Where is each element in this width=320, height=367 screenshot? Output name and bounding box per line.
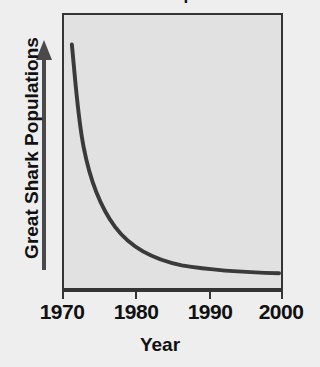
- x-axis-line: [62, 290, 283, 292]
- x-tick-1970: [62, 290, 64, 299]
- chart-title-text: Great Shark Populations: [0, 0, 320, 4]
- x-tick-1990: [209, 290, 211, 299]
- data-curve: [64, 15, 281, 288]
- plot-area: [62, 13, 283, 290]
- x-tick-label-1980: 1980: [114, 300, 159, 324]
- x-tick-1980: [135, 290, 137, 299]
- decay-curve-path: [72, 45, 279, 274]
- y-axis-title: Great Shark Populations: [21, 8, 43, 288]
- x-tick-label-2000: 2000: [259, 300, 304, 324]
- x-tick-labels: 1970 1980 1990 2000: [0, 300, 320, 330]
- x-tick-label-1970: 1970: [40, 300, 85, 324]
- chart-title-clipped: Great Shark Populations: [0, 0, 320, 4]
- x-tick-label-1990: 1990: [188, 300, 233, 324]
- x-axis-title: Year: [0, 334, 320, 356]
- chart-figure: Great Shark Populations 1970 1980 1990 2…: [0, 0, 320, 367]
- x-tick-2000: [281, 290, 283, 299]
